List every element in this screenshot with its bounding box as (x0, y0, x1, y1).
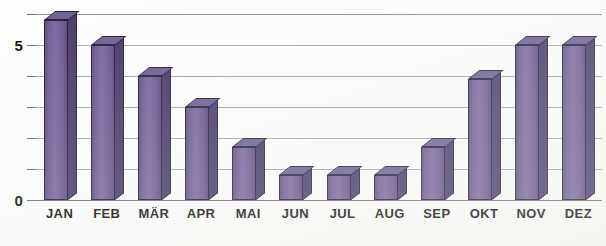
bar-body (327, 175, 351, 200)
bar-mai (232, 147, 256, 200)
bar-side-face (209, 100, 218, 200)
bar-side-face (492, 72, 501, 200)
bar-jun (279, 175, 303, 200)
bar-sep (421, 147, 445, 200)
x-tick-label-jan: JAN (46, 206, 73, 221)
x-tick-label-feb: FEB (93, 206, 120, 221)
x-tick-label-jul: JUL (330, 206, 356, 221)
bar-body (374, 175, 398, 200)
x-tick-label-sep: SEP (423, 206, 450, 221)
y-tick-mark-4 (27, 76, 36, 77)
bar-side-face (586, 38, 595, 200)
bar-body (91, 45, 115, 200)
bar-aug (374, 175, 398, 200)
y-tick-label-0: 0 (14, 192, 23, 209)
bar-nov (515, 45, 539, 200)
bar-side-face (115, 38, 124, 200)
bar-side-face (68, 13, 77, 200)
y-tick-mark-0 (27, 200, 36, 201)
bar-front-face (562, 45, 586, 200)
bar-side-face (256, 140, 265, 200)
bar-body (562, 45, 586, 200)
bar-body (468, 79, 492, 200)
bar-side-face (162, 69, 171, 200)
bar-body (232, 147, 256, 200)
plot-area: 05 (36, 14, 602, 200)
bar-mär (138, 76, 162, 200)
gridline-0: 0 (36, 200, 602, 201)
bar-body (279, 175, 303, 200)
x-tick-label-dez: DEZ (565, 206, 592, 221)
y-tick-label-5: 5 (14, 37, 23, 54)
bar-side-face (445, 140, 454, 200)
x-tick-label-nov: NOV (517, 206, 546, 221)
x-tick-label-apr: APR (187, 206, 216, 221)
bar-front-face (44, 20, 68, 200)
bars-layer (36, 14, 602, 200)
bar-jul (327, 175, 351, 200)
bar-dez (562, 45, 586, 200)
y-tick-mark-2 (27, 138, 36, 139)
bar-front-face (279, 175, 303, 200)
x-tick-label-aug: AUG (375, 206, 405, 221)
bar-okt (468, 79, 492, 200)
bar-chart: 05 JANFEBMÄRAPRMAIJUNJULAUGSEPOKTNOVDEZ (0, 0, 606, 246)
y-tick-mark-5 (27, 45, 36, 46)
bar-front-face (327, 175, 351, 200)
bar-front-face (138, 76, 162, 200)
bar-jan (44, 20, 68, 200)
bar-front-face (91, 45, 115, 200)
bar-body (185, 107, 209, 200)
bar-body (44, 20, 68, 200)
x-tick-label-okt: OKT (470, 206, 499, 221)
bar-front-face (515, 45, 539, 200)
bar-body (421, 147, 445, 200)
bar-side-face (539, 38, 548, 200)
bar-body (515, 45, 539, 200)
y-tick-mark-3 (27, 107, 36, 108)
bar-front-face (468, 79, 492, 200)
x-tick-label-mai: MAI (236, 206, 261, 221)
bar-front-face (421, 147, 445, 200)
x-tick-label-mär: MÄR (139, 206, 170, 221)
bar-apr (185, 107, 209, 200)
bar-front-face (185, 107, 209, 200)
bar-body (138, 76, 162, 200)
y-tick-mark-6 (27, 14, 36, 15)
bar-front-face (232, 147, 256, 200)
x-tick-label-jun: JUN (282, 206, 309, 221)
x-axis-labels: JANFEBMÄRAPRMAIJUNJULAUGSEPOKTNOVDEZ (36, 206, 602, 234)
bar-front-face (374, 175, 398, 200)
y-tick-mark-1 (27, 169, 36, 170)
bar-feb (91, 45, 115, 200)
